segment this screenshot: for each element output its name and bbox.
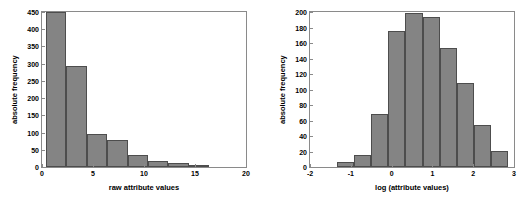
y-tick-mark xyxy=(310,136,313,137)
plot-area-log: 020406080100120140160180200 -2-10123 xyxy=(309,11,515,168)
histogram-bar xyxy=(107,140,127,167)
histogram-bar xyxy=(405,13,422,167)
y-tick-mark xyxy=(310,152,313,153)
x-tick-label: 2 xyxy=(471,170,475,177)
y-tick-label: 250 xyxy=(27,77,39,84)
x-tick-label: 15 xyxy=(191,170,199,177)
histogram-bar xyxy=(354,155,371,167)
x-tick-mark xyxy=(93,164,94,167)
histogram-bar xyxy=(388,31,405,167)
x-tick-mark xyxy=(432,164,433,167)
bar-series-raw xyxy=(42,12,246,167)
histogram-bar xyxy=(474,125,491,167)
x-tick-mark xyxy=(42,164,43,167)
y-tick-label: 160 xyxy=(295,40,307,47)
y-tick-label: 200 xyxy=(27,95,39,102)
histogram-bar xyxy=(148,161,168,167)
y-tick-label: 50 xyxy=(31,146,39,153)
y-tick-mark xyxy=(42,64,45,65)
y-tick-label: 120 xyxy=(295,71,307,78)
y-tick-mark xyxy=(310,121,313,122)
histogram-bar xyxy=(440,48,457,167)
x-tick-mark xyxy=(473,164,474,167)
x-tick-label: 0 xyxy=(40,170,44,177)
x-tick-mark xyxy=(246,164,247,167)
histogram-bar xyxy=(189,165,209,167)
dual-histogram-figure: 050100150200250300350400450 05101520 raw… xyxy=(0,0,531,216)
y-tick-label: 450 xyxy=(27,9,39,16)
x-tick-mark xyxy=(310,164,311,167)
y-tick-mark xyxy=(310,105,313,106)
y-tick-mark xyxy=(310,28,313,29)
y-tick-mark xyxy=(310,43,313,44)
histogram-bar xyxy=(457,83,474,167)
x-tick-label: 1 xyxy=(430,170,434,177)
histogram-bar xyxy=(46,12,66,167)
y-axis-title-log: absolute frequency xyxy=(278,55,287,124)
chart-panel-log: 020406080100120140160180200 -2-10123 log… xyxy=(265,0,531,216)
histogram-bar xyxy=(491,151,508,167)
histogram-bar xyxy=(128,155,148,167)
y-tick-label: 180 xyxy=(295,24,307,31)
x-tick-label: 10 xyxy=(140,170,148,177)
histogram-bar xyxy=(87,134,107,167)
y-tick-label: 100 xyxy=(27,129,39,136)
y-tick-mark xyxy=(310,12,313,13)
x-axis-title-log: log (attribute values) xyxy=(309,183,515,192)
x-tick-mark xyxy=(514,164,515,167)
y-tick-label: 100 xyxy=(295,86,307,93)
y-tick-mark xyxy=(42,115,45,116)
y-tick-label: 20 xyxy=(299,148,307,155)
x-tick-mark xyxy=(144,164,145,167)
x-tick-mark xyxy=(351,164,352,167)
y-tick-label: 150 xyxy=(27,112,39,119)
y-tick-label: 40 xyxy=(299,133,307,140)
x-tick-mark xyxy=(195,164,196,167)
x-tick-label: 3 xyxy=(512,170,516,177)
chart-panel-raw: 050100150200250300350400450 05101520 raw… xyxy=(0,0,265,216)
y-tick-mark xyxy=(310,59,313,60)
x-tick-label: -1 xyxy=(348,170,354,177)
y-tick-label: 350 xyxy=(27,43,39,50)
y-tick-mark xyxy=(42,150,45,151)
y-tick-mark xyxy=(310,90,313,91)
y-tick-label: 140 xyxy=(295,55,307,62)
y-tick-mark xyxy=(42,12,45,13)
y-tick-mark xyxy=(42,46,45,47)
plot-area-raw: 050100150200250300350400450 05101520 xyxy=(41,11,247,168)
y-axis-title-raw: absolute frequency xyxy=(10,55,19,124)
histogram-bar xyxy=(66,66,86,167)
histogram-bar xyxy=(423,17,440,167)
y-tick-label: 200 xyxy=(295,9,307,16)
y-tick-label: 60 xyxy=(299,117,307,124)
y-tick-mark xyxy=(310,167,313,168)
x-tick-label: 0 xyxy=(390,170,394,177)
y-tick-mark xyxy=(42,133,45,134)
histogram-bar xyxy=(168,163,188,167)
y-tick-mark xyxy=(310,74,313,75)
x-tick-label: 5 xyxy=(91,170,95,177)
x-axis-title-raw: raw attribute values xyxy=(41,183,247,192)
y-tick-mark xyxy=(42,29,45,30)
y-tick-mark xyxy=(42,81,45,82)
x-tick-label: -2 xyxy=(307,170,313,177)
x-tick-mark xyxy=(392,164,393,167)
y-tick-label: 80 xyxy=(299,102,307,109)
bar-series-log xyxy=(310,12,514,167)
y-tick-mark xyxy=(42,98,45,99)
histogram-bar xyxy=(371,114,388,167)
y-tick-label: 0 xyxy=(35,164,39,171)
y-tick-label: 300 xyxy=(27,60,39,67)
y-tick-mark xyxy=(42,167,45,168)
y-tick-label: 400 xyxy=(27,26,39,33)
x-tick-label: 20 xyxy=(242,170,250,177)
